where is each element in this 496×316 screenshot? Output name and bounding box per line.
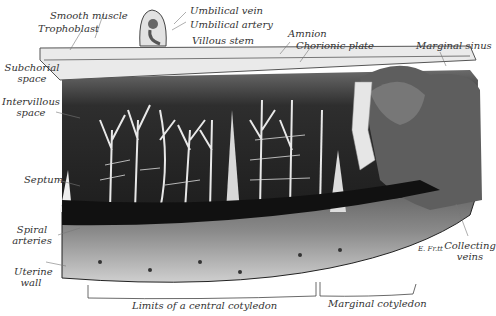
placenta-diagram: Smooth muscle Trophoblast Umbilical vein… bbox=[0, 0, 496, 316]
label-marginal-cotyledon: Marginal cotyledon bbox=[328, 298, 427, 309]
label-septum: Septum bbox=[24, 174, 63, 185]
label-trophoblast: Trophoblast bbox=[38, 23, 99, 34]
label-umbilical-artery: Umbilical artery bbox=[190, 19, 273, 30]
label-chorionic-plate: Chorionic plate bbox=[296, 40, 374, 51]
label-uterine-wall: Uterine wall bbox=[14, 266, 48, 288]
label-subchorial-space: Subchorial space bbox=[4, 62, 60, 84]
label-smooth-muscle: Smooth muscle bbox=[50, 10, 128, 21]
label-intervillous-space: Intervillous space bbox=[0, 96, 62, 118]
label-amnion: Amnion bbox=[288, 28, 327, 39]
artist-signature: E. Fr.tt bbox=[418, 244, 443, 255]
label-marginal-sinus: Marginal sinus bbox=[416, 40, 492, 51]
label-villous-stem: Villous stem bbox=[192, 35, 254, 46]
label-spiral-arteries: Spiral arteries bbox=[12, 224, 52, 246]
label-central-cotyledon: Limits of a central cotyledon bbox=[132, 300, 277, 311]
label-umbilical-vein: Umbilical vein bbox=[190, 5, 263, 16]
label-collecting-veins: Collecting veins bbox=[444, 240, 496, 262]
